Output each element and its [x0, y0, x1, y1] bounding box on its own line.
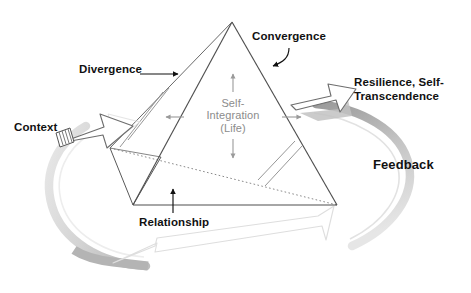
label-resilience-self-transcendence: Resilience, Self-Transcendence: [354, 76, 444, 103]
hatch-left-2: [120, 92, 163, 147]
label-resilience-line1: Resilience, Self-: [354, 76, 444, 88]
feedback-return-arrow-shape: [113, 206, 334, 263]
context-block-arrow: [56, 114, 140, 148]
pyramid-edge-backleft-down: [110, 148, 133, 205]
label-context: Context: [14, 121, 58, 134]
label-divergence: Divergence: [79, 63, 142, 76]
diagram-vector-layer: [0, 0, 471, 293]
label-self-integration-line1: Self-: [221, 97, 244, 109]
pyramid-edge-backleft-inner: [110, 148, 161, 157]
resilience-block-arrow: [291, 84, 356, 121]
label-self-integration-line2: Integration: [206, 109, 259, 121]
label-relationship: Relationship: [139, 216, 209, 229]
convergence-leader: [273, 48, 289, 66]
diagram-canvas: Convergence Divergence Resilience, Self-…: [0, 0, 471, 293]
hatch-right-2: [265, 146, 302, 186]
pyramid-hidden-edge: [110, 148, 337, 205]
label-self-integration: Self-Integration(Life): [186, 97, 280, 134]
feedback-return-arrow: [113, 206, 334, 263]
label-convergence: Convergence: [252, 30, 326, 43]
label-feedback: Feedback: [373, 158, 434, 173]
context-arrow-tail-hatch: [56, 128, 74, 147]
label-resilience-line2: Transcendence: [354, 90, 439, 102]
hatch-left-1: [128, 88, 169, 140]
label-self-integration-line3: (Life): [220, 122, 246, 134]
loop-band-left: [49, 126, 146, 266]
